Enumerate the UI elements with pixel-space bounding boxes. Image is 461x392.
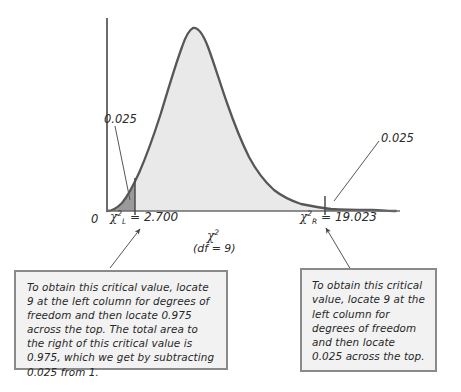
left-annotation-box: To obtain this critical value, locate 9 …	[14, 270, 228, 370]
left-critical-value-number: 2.700	[144, 210, 178, 224]
chi-subscript-left: L	[122, 217, 126, 226]
x-axis-title: χ2	[207, 228, 219, 243]
right-critical-value-number: 19.023	[335, 210, 377, 224]
right-tail-leader-line	[334, 141, 379, 201]
axis-origin-label: 0	[91, 212, 98, 226]
left-critical-value-label: χ2L = 2.700	[110, 209, 178, 226]
right-critical-value-label: χ2R = 19.023	[300, 209, 377, 226]
right-note-leader-line	[326, 228, 351, 270]
equals-sign-right: =	[321, 210, 331, 224]
degrees-of-freedom-label: (df = 9)	[193, 242, 236, 255]
chi-subscript-right: R	[312, 217, 317, 226]
right-annotation-box: To obtain this critical value, locate 9 …	[300, 268, 437, 372]
distribution-body-region	[107, 28, 396, 211]
left-tail-area-label: 0.025	[104, 112, 137, 126]
left-note-leader-line	[110, 229, 140, 268]
equals-sign-left: =	[130, 210, 140, 224]
left-tail-leader-line	[115, 126, 130, 200]
right-tail-area-label: 0.025	[381, 131, 414, 145]
axis-chi-exponent: 2	[214, 228, 219, 237]
